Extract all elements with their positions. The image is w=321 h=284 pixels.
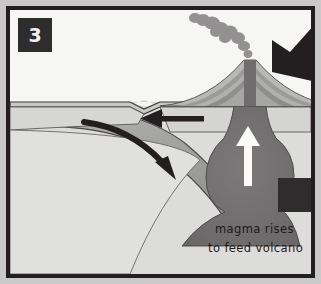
panel-frame: 3 magma rises to feed volcano	[6, 6, 315, 278]
corner-block	[278, 178, 311, 212]
diagram-panel: 3 magma rises to feed volcano	[0, 0, 321, 284]
panel-number-badge: 3	[18, 18, 52, 52]
magma-caption-line-2: to feed volcano	[208, 241, 303, 255]
panel-number-label: 3	[28, 26, 41, 45]
magma-caption-line-1: magma rises	[215, 222, 294, 236]
summit-vent	[244, 60, 256, 106]
